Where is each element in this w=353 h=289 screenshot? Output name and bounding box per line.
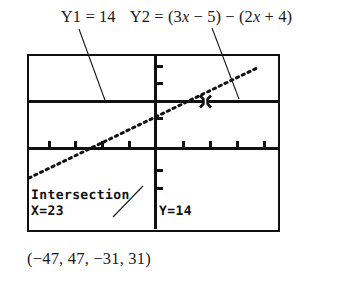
x-axis-tick — [182, 141, 185, 147]
intersection-x-readout: X=23 — [31, 205, 64, 218]
x-axis-tick — [263, 141, 266, 147]
equation-line: Y1 = 14Y2 = (3x − 5) − (2x + 4) — [0, 7, 353, 27]
y-axis-tick — [157, 117, 163, 120]
calculator-screen: Intersection X=23 Y=14 — [27, 54, 280, 232]
equation-y2-prefix: Y2 = (3 — [130, 7, 182, 26]
window-settings-caption: (−47, 47, −31, 31) — [27, 249, 151, 269]
x-axis-tick — [74, 141, 77, 147]
equation-y2-mid: − 5) − (2 — [189, 7, 253, 26]
x-axis-tick — [236, 141, 239, 147]
y-axis-tick — [157, 65, 163, 68]
equation-y2: Y2 = (3x − 5) − (2x + 4) — [130, 7, 292, 27]
intersection-y-readout: Y=14 — [159, 205, 192, 218]
equation-y2-suffix: + 4) — [260, 7, 292, 26]
x-axis-tick — [128, 141, 131, 147]
y-axis-tick — [157, 187, 163, 190]
equation-y1: Y1 = 14 — [61, 7, 116, 27]
x-axis-tick — [48, 141, 51, 147]
y-axis-tick — [157, 169, 163, 172]
x-axis-tick — [209, 141, 212, 147]
intersection-status-label: Intersection — [31, 189, 130, 202]
y-axis-tick — [157, 82, 163, 85]
x-axis-tick — [101, 141, 104, 147]
